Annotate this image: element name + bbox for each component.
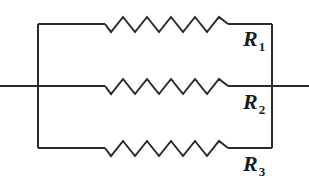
resistor-r3-subscript: 3 (259, 164, 266, 179)
resistor-r1-label: R1 (243, 28, 264, 50)
parallel-resistor-circuit-figure: R1 R2 R3 (0, 0, 309, 195)
resistor-r1-symbol: R (243, 26, 258, 51)
resistor-r2-label: R2 (243, 91, 264, 113)
resistor-r1-subscript: 1 (259, 39, 266, 54)
resistor-r3-symbol: R (243, 151, 258, 176)
resistor-r2-subscript: 2 (259, 102, 266, 117)
resistor-r3-label: R3 (243, 153, 264, 175)
resistor-r2-zigzag (105, 79, 228, 94)
resistor-r1-zigzag (105, 17, 228, 32)
resistor-r3-zigzag (105, 141, 228, 156)
resistor-r2-symbol: R (243, 89, 258, 114)
